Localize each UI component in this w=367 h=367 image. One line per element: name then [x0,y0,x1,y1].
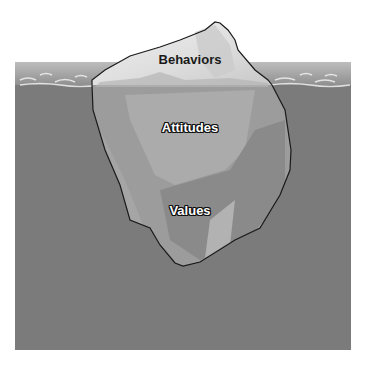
iceberg-diagram: Behaviors Attitudes Values [0,0,367,367]
label-attitudes: Attitudes [162,120,218,135]
label-values: Values [169,203,210,218]
label-behaviors: Behaviors [159,52,222,67]
